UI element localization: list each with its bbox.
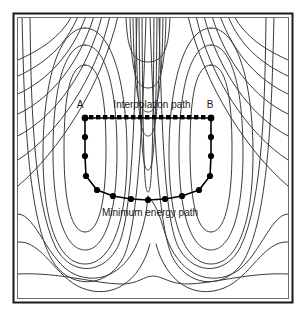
mep-node[interactable] [162,196,168,202]
endpoint-node-b[interactable] [208,115,215,122]
interpolation-path-node[interactable] [138,115,142,119]
mep-node[interactable] [110,193,116,199]
interpolation-path-node[interactable] [110,115,114,119]
label-endpoint-a: A [77,99,84,110]
interpolation-path-node[interactable] [201,115,205,119]
mep-node[interactable] [207,173,213,179]
mep-node[interactable] [94,187,100,193]
label-minimum-energy-path: Minimum energy path [102,207,198,218]
label-endpoint-b: B [207,99,214,110]
mep-node[interactable] [179,193,185,199]
potential-energy-surface-plot: A B Interpolation path Minimum energy pa… [0,0,307,319]
mep-node[interactable] [128,196,134,202]
interpolation-path-node[interactable] [194,115,198,119]
interpolation-path-node[interactable] [96,115,100,119]
interpolation-path-node[interactable] [152,115,156,119]
interpolation-path-node[interactable] [159,115,163,119]
interpolation-path-node[interactable] [131,115,135,119]
mep-node[interactable] [196,187,202,193]
contour-figure: A B Interpolation path Minimum energy pa… [0,0,307,319]
endpoint-node-a[interactable] [82,115,89,122]
interpolation-path-node[interactable] [145,115,149,119]
interpolation-path-node[interactable] [89,115,93,119]
interpolation-path-node[interactable] [103,115,107,119]
mep-node[interactable] [82,153,88,159]
interpolation-path-node[interactable] [166,115,170,119]
mep-node[interactable] [145,197,151,203]
interpolation-path-node[interactable] [173,115,177,119]
interpolation-path-node[interactable] [187,115,191,119]
mep-node[interactable] [208,153,214,159]
interpolation-path-node[interactable] [180,115,184,119]
mep-node[interactable] [83,173,89,179]
mep-node[interactable] [208,134,214,140]
mep-node[interactable] [82,134,88,140]
label-interpolation-path: Interpolation path [113,99,190,110]
interpolation-path-node[interactable] [124,115,128,119]
interpolation-path-node[interactable] [117,115,121,119]
